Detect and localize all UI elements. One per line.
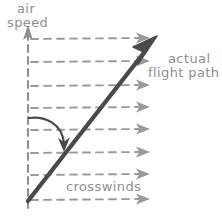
crosswinds-label: crosswinds bbox=[66, 180, 141, 194]
crosswind-line bbox=[31, 152, 139, 153]
crosswind-row bbox=[31, 124, 150, 135]
drift-angle-curved-arrow bbox=[29, 118, 70, 152]
flight-path-diagram: air speed actual flight path crosswinds bbox=[0, 0, 222, 219]
air-speed-label: air speed bbox=[7, 2, 48, 29]
actual-flight-path-label: actual flight path bbox=[160, 52, 219, 79]
crosswind-row bbox=[31, 33, 150, 44]
crosswind-row bbox=[31, 194, 150, 205]
flight-path-label-line2: flight path bbox=[148, 66, 219, 80]
crosswind-line bbox=[31, 38, 139, 39]
actual-flight-path-arrow bbox=[28, 36, 157, 201]
flight-path-label-line1: actual bbox=[160, 52, 219, 66]
crosswind-row bbox=[31, 147, 150, 158]
crosswind-row bbox=[31, 102, 150, 113]
air-speed-axis bbox=[23, 25, 33, 208]
air-speed-label-line2: speed bbox=[7, 16, 48, 30]
crosswind-line bbox=[31, 61, 139, 62]
crosswind-line bbox=[31, 199, 139, 200]
crosswind-line bbox=[31, 85, 139, 86]
air-speed-label-line1: air bbox=[7, 2, 48, 16]
crosswind-line bbox=[31, 107, 139, 108]
crosswind-row bbox=[31, 80, 150, 91]
